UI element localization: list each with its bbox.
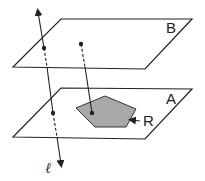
plane-a-label: A — [166, 90, 176, 107]
planes-diagram: B A R ℓ — [0, 0, 205, 181]
plane-b-label: B — [166, 19, 176, 36]
region-r-pointer-arrow — [132, 120, 140, 121]
line-l-hidden-segment-b — [44, 48, 47, 67]
diagram-canvas: B A R ℓ — [0, 0, 205, 181]
line-l-bottom-segment — [57, 137, 61, 164]
point-in-region-r — [90, 111, 94, 115]
region-r — [76, 96, 136, 127]
line-l-hidden-segment-a — [53, 113, 57, 137]
perpendicular-hidden-segment — [81, 44, 85, 67]
line-l-middle-segment — [47, 67, 53, 113]
line-l-point-on-b — [42, 46, 46, 50]
region-r-label: R — [143, 112, 154, 129]
line-l-label: ℓ — [45, 160, 51, 176]
line-l-point-on-a — [51, 111, 55, 115]
line-l-top-segment — [38, 12, 44, 48]
